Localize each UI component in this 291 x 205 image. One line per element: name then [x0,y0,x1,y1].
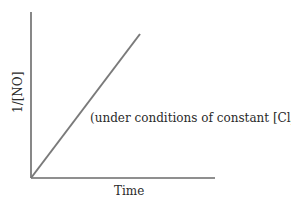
data-line [31,34,140,178]
annotation: (under conditions of constant [Cl2]) [90,111,291,127]
chart-plot [0,0,291,205]
annotation-text: (under conditions of constant [Cl [90,111,291,125]
y-axis-label: 1/[NO] [11,73,25,113]
x-axis-label: Time [114,184,144,198]
